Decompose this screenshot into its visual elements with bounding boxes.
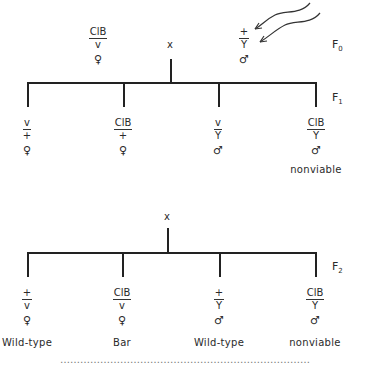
f2-phenotype-2: Bar: [82, 337, 162, 348]
f1-genotype-2: ClB+: [93, 117, 153, 141]
female-symbol-icon: ♀: [92, 314, 152, 327]
branch-f1-2: [123, 82, 125, 107]
generation-label-f2: F2: [332, 260, 343, 275]
parent-female-genotype: ClBv: [68, 26, 128, 50]
branch-f2-4: [315, 252, 317, 277]
male-symbol-icon: ♂: [286, 144, 346, 157]
cross-stem-f1: [170, 59, 172, 83]
f1-genotype-3: vY: [188, 117, 248, 141]
branch-f1-1: [27, 82, 29, 107]
female-symbol-icon: ♀: [0, 314, 57, 327]
f1-genotype-1: v+: [0, 117, 57, 141]
female-symbol-icon: ♀: [93, 144, 153, 157]
f1-note-nonviable: nonviable: [276, 164, 356, 175]
f2-genotype-3: +Y: [189, 287, 249, 311]
f2-phenotype-3: Wild-type: [179, 337, 259, 348]
female-symbol-icon: ♀: [68, 53, 128, 66]
bracket-f1: [27, 82, 317, 84]
male-symbol-icon: ♂: [214, 53, 274, 66]
f1-genotype-4: ClBY: [286, 117, 346, 141]
cross-symbol: x: [167, 39, 173, 50]
generation-label-f1: F1: [332, 91, 343, 106]
female-symbol-icon: ♀: [0, 144, 57, 157]
cross-stem-f2: [167, 228, 169, 253]
f2-genotype-1: +v: [0, 287, 57, 311]
branch-f2-1: [27, 252, 29, 277]
male-symbol-icon: ♂: [188, 144, 248, 157]
male-symbol-icon: ♂: [285, 314, 345, 327]
male-symbol-icon: ♂: [189, 314, 249, 327]
f2-phenotype-1: Wild-type: [0, 337, 67, 348]
irradiation-arrows-icon: [250, 0, 330, 50]
clipped-caption: …………………………………………………………………: [0, 359, 368, 365]
branch-f2-3: [219, 252, 221, 277]
branch-f1-4: [315, 82, 317, 107]
f2-phenotype-4: nonviable: [275, 337, 355, 348]
branch-f2-2: [122, 252, 124, 277]
bracket-f2: [27, 252, 317, 254]
f2-genotype-4: ClBY: [285, 287, 345, 311]
cross-symbol: x: [164, 211, 170, 222]
branch-f1-3: [218, 82, 220, 107]
generation-label-f0: F0: [332, 38, 343, 53]
f2-genotype-2: ClBv: [92, 287, 152, 311]
